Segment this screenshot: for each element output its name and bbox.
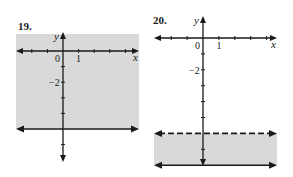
x-axis-label: x bbox=[132, 51, 138, 63]
origin-label: 0 bbox=[55, 53, 60, 64]
y-axis-up-arrow bbox=[200, 16, 206, 23]
exercise-number: 20. bbox=[153, 14, 167, 26]
graph-19: 19.01−2xy bbox=[16, 20, 139, 162]
shaded-region bbox=[16, 34, 139, 129]
graph-20: 20.01−2xy bbox=[153, 14, 277, 169]
shaded-region bbox=[154, 133, 277, 165]
x-axis-left-arrow bbox=[154, 35, 161, 41]
y-tick-label: −2 bbox=[49, 77, 60, 88]
y-axis-down-arrow bbox=[60, 155, 66, 162]
y-axis-label: y bbox=[53, 30, 59, 42]
origin-label: 0 bbox=[195, 40, 200, 51]
x-axis-label: x bbox=[270, 38, 276, 50]
y-tick-label: −2 bbox=[189, 65, 200, 76]
exercise-number: 19. bbox=[18, 20, 32, 32]
y-axis-label: y bbox=[193, 14, 199, 26]
x-tick-label: 1 bbox=[216, 40, 221, 51]
exercise-graphs: 19.01−2xy20.01−2xy bbox=[0, 0, 293, 177]
x-tick-label: 1 bbox=[76, 53, 81, 64]
